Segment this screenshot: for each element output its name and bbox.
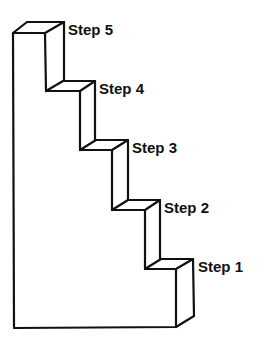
staircase-diagram: Step 5 Step 4 Step 3 Step 2 Step 1 xyxy=(0,0,266,349)
step-3-top-face xyxy=(80,140,128,150)
step-5-label: Step 5 xyxy=(68,21,113,38)
step-5-top-face xyxy=(13,22,64,33)
step-1-side-face xyxy=(176,259,194,327)
step-2-label: Step 2 xyxy=(164,199,209,216)
step-1-top-face xyxy=(145,259,193,269)
step-4-top-face xyxy=(46,81,95,91)
step-3-label: Step 3 xyxy=(132,139,177,156)
step-4-label: Step 4 xyxy=(99,80,145,97)
staircase-front-face xyxy=(13,33,176,328)
step-2-top-face xyxy=(112,200,160,210)
step-1-label: Step 1 xyxy=(198,258,243,275)
